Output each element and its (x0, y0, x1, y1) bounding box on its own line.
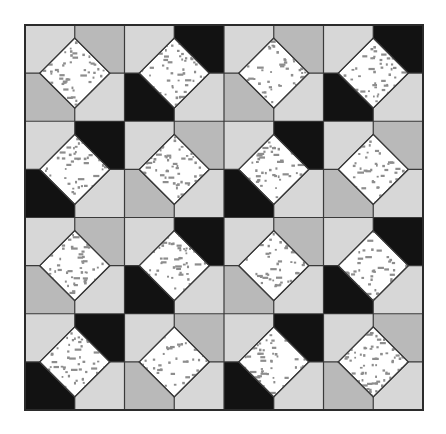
speckle-dot (171, 277, 173, 279)
speckle-dot (68, 344, 70, 346)
speckle-dot (54, 270, 56, 273)
speckle-dot (50, 366, 52, 368)
speckle-dot (380, 59, 383, 61)
speckle-dot (200, 76, 202, 78)
speckle-dot (261, 368, 263, 370)
speckle-dot (149, 75, 151, 77)
speckle-dot (68, 239, 71, 241)
speckle-dot (161, 244, 164, 247)
speckle-dot (194, 71, 196, 74)
speckle-dot (376, 346, 378, 348)
speckle-dot (301, 72, 303, 74)
speckle-dot (293, 82, 295, 84)
speckle-dot (302, 264, 305, 266)
speckle-dot (350, 79, 353, 81)
speckle-dot (389, 181, 392, 184)
speckle-dot (291, 74, 293, 77)
speckle-dot (74, 382, 76, 385)
speckle-dot (182, 68, 184, 71)
speckle-dot (390, 274, 395, 276)
speckle-dot (295, 366, 297, 369)
speckle-dot (177, 50, 180, 52)
speckle-dot (380, 342, 386, 344)
speckle-dot (191, 58, 194, 60)
speckle-dot (376, 164, 378, 167)
speckle-dot (184, 91, 187, 93)
speckle-dot (174, 139, 177, 142)
speckle-dot (102, 168, 104, 170)
speckle-dot (198, 359, 200, 361)
speckle-dot (247, 65, 249, 67)
speckle-dot (63, 88, 68, 90)
speckle-dot (101, 263, 103, 266)
speckle-dot (92, 268, 95, 270)
speckle-dot (158, 364, 161, 366)
speckle-dot (160, 258, 163, 260)
speckle-dot (185, 250, 187, 252)
speckle-dot (80, 267, 82, 269)
speckle-dot (186, 248, 188, 250)
speckle-dot (89, 154, 93, 156)
speckle-dot (352, 69, 355, 71)
speckle-dot (192, 358, 194, 360)
speckle-dot (164, 55, 169, 57)
speckle-dot (370, 278, 372, 281)
speckle-dot (275, 187, 277, 189)
speckle-dot (270, 71, 272, 73)
speckle-dot (286, 68, 289, 70)
speckle-dot (88, 55, 90, 58)
speckle-dot (173, 163, 178, 165)
speckle-dot (377, 95, 379, 97)
speckle-dot (66, 164, 71, 166)
speckle-dot (373, 269, 376, 271)
speckle-dot (78, 186, 80, 189)
speckle-dot (189, 248, 191, 250)
speckle-dot (155, 169, 157, 171)
speckle-dot (363, 249, 366, 251)
speckle-dot (276, 196, 279, 198)
speckle-dot (271, 45, 274, 47)
speckle-dot (168, 242, 170, 244)
speckle-dot (57, 264, 60, 266)
speckle-dot (168, 177, 174, 179)
speckle-dot (382, 165, 385, 167)
speckle-dot (183, 264, 186, 266)
speckle-dot (76, 380, 78, 382)
speckle-dot (71, 246, 74, 248)
speckle-dot (176, 187, 178, 190)
speckle-dot (377, 339, 381, 341)
speckle-dot (272, 347, 276, 349)
speckle-dot (166, 170, 168, 172)
speckle-dot (385, 352, 388, 354)
speckle-dot (74, 277, 80, 279)
speckle-dot (362, 379, 364, 381)
speckle-dot (380, 353, 383, 355)
speckle-dot (62, 376, 64, 378)
speckle-dot (295, 358, 299, 360)
speckle-dot (154, 158, 157, 161)
speckle-dot (283, 173, 289, 175)
speckle-dot (73, 236, 80, 238)
speckle-dot (372, 84, 377, 86)
speckle-dot (276, 263, 278, 266)
speckle-dot (66, 78, 71, 80)
speckle-dot (193, 80, 195, 82)
speckle-dot (278, 148, 280, 151)
speckle-dot (269, 86, 272, 88)
speckle-dot (161, 261, 166, 263)
speckle-dot (291, 165, 295, 167)
speckle-dot (49, 268, 51, 271)
speckle-dot (392, 262, 395, 264)
speckle-dot (266, 373, 269, 375)
speckle-dot (246, 356, 251, 358)
speckle-dot (181, 53, 184, 55)
speckle-dot (373, 96, 375, 98)
speckle-dot (75, 146, 78, 148)
speckle-dot (69, 357, 76, 359)
speckle-dot (270, 334, 273, 336)
speckle-dot (279, 64, 285, 66)
speckle-dot (361, 187, 366, 189)
speckle-dot (263, 151, 265, 153)
speckle-dot (365, 156, 367, 158)
speckle-dot (59, 74, 64, 76)
